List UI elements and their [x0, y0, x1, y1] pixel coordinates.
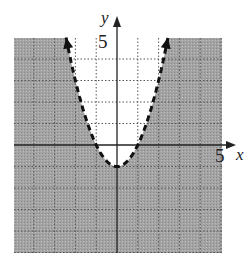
y-axis-arrow-icon [113, 16, 121, 27]
x-axis-label: x [236, 146, 244, 163]
x-tick-label: 5 [215, 146, 225, 165]
x-axis-arrow-icon [226, 141, 236, 149]
inequality-graph [0, 0, 249, 261]
y-tick-label: 5 [98, 32, 108, 51]
y-axis-label: y [101, 9, 109, 26]
